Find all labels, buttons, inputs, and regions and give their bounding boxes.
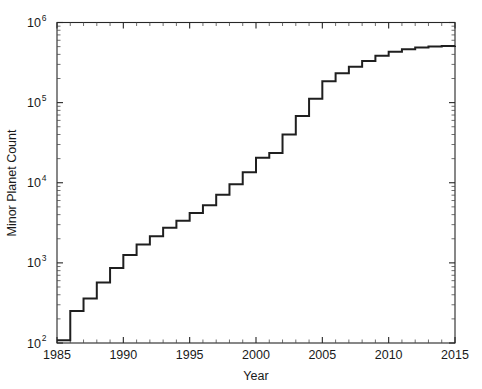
y-tick-label-exponent-1: 3: [42, 253, 47, 263]
minor-planet-count-line-chart: 102103104105106 198519901995200020052010…: [0, 0, 482, 389]
y-tick-label-exponent-3: 5: [42, 93, 47, 103]
y-tick-label-exponent-0: 2: [42, 333, 47, 343]
chart-figure: 102103104105106 198519901995200020052010…: [0, 0, 482, 389]
x-tick-label-4: 2005: [308, 348, 336, 362]
y-tick-label-exponent-2: 4: [42, 173, 47, 183]
y-axis-label: Minor Planet Count: [5, 129, 19, 237]
y-tick-label-exponent-4: 6: [42, 13, 47, 23]
figure-background: [0, 0, 482, 389]
x-tick-label-5: 2010: [375, 348, 403, 362]
y-tick-label-base-1: 10: [27, 256, 41, 270]
x-tick-label-1: 1990: [109, 348, 137, 362]
y-tick-label-base-3: 10: [27, 96, 41, 110]
x-tick-label-6: 2015: [441, 348, 469, 362]
x-tick-label-3: 2000: [242, 348, 270, 362]
x-tick-label-0: 1985: [43, 348, 71, 362]
y-tick-label-base-2: 10: [27, 176, 41, 190]
y-tick-label-base-4: 10: [27, 16, 41, 30]
y-tick-label-base-0: 10: [27, 337, 41, 351]
x-axis-label: Year: [243, 369, 268, 383]
x-tick-label-2: 1995: [176, 348, 204, 362]
